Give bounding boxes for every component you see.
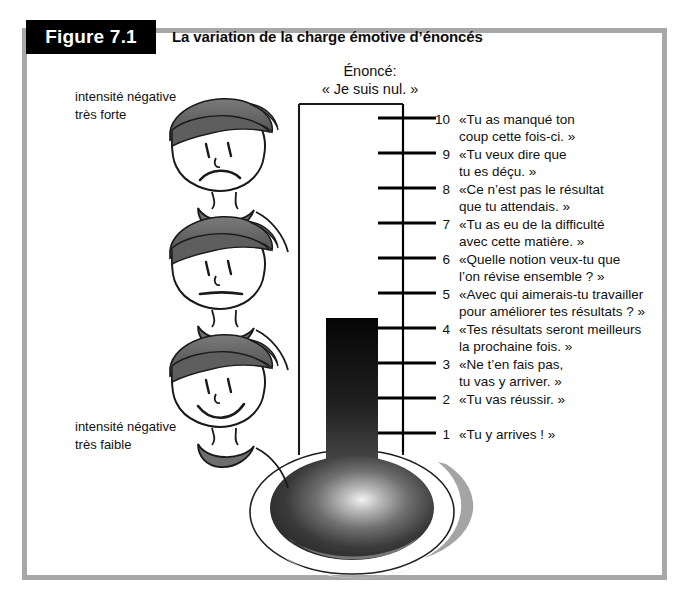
- scale-text-6: «Quelle notion veux-tu que l’on révise e…: [459, 251, 620, 286]
- scale-label-list: 10 «Tu as manqué ton coup cette fois-ci.…: [0, 0, 693, 609]
- scale-number-4: 4: [424, 321, 450, 338]
- figure-title: La variation de la charge émotive d’énon…: [172, 28, 483, 45]
- scale-number-1: 1: [424, 426, 450, 443]
- scale-item-2: 2 «Tu vas réussir. »: [424, 391, 565, 408]
- scale-number-3: 3: [424, 356, 450, 373]
- scale-text-7: «Tu as eu de la difficulté avec cette ma…: [459, 216, 605, 251]
- scale-item-5: 5 «Avec qui aimerais-tu travailler pour …: [424, 286, 645, 321]
- scale-text-10: «Tu as manqué ton coup cette fois-ci. »: [459, 111, 575, 146]
- scale-text-9: «Tu veux dire que tu es déçu. »: [459, 146, 567, 181]
- scale-item-8: 8 «Ce n’est pas le résultat que tu atten…: [424, 181, 604, 216]
- scale-number-5: 5: [424, 286, 450, 303]
- figure-container: Figure 7.1 La variation de la charge émo…: [0, 0, 693, 609]
- scale-number-8: 8: [424, 181, 450, 198]
- scale-text-1: «Tu y arrives ! »: [459, 426, 555, 443]
- scale-number-10: 10: [424, 111, 450, 128]
- scale-text-2: «Tu vas réussir. »: [459, 391, 565, 408]
- scale-item-4: 4 «Tes résultats seront meilleurs la pro…: [424, 321, 641, 356]
- scale-number-7: 7: [424, 216, 450, 233]
- scale-item-7: 7 «Tu as eu de la difficulté avec cette …: [424, 216, 605, 251]
- scale-item-1: 1 «Tu y arrives ! »: [424, 426, 555, 443]
- scale-item-3: 3 «Ne t’en fais pas, tu vas y arriver. »: [424, 356, 563, 391]
- scale-text-3: «Ne t’en fais pas, tu vas y arriver. »: [459, 356, 563, 391]
- scale-item-6: 6 «Quelle notion veux-tu que l’on révise…: [424, 251, 620, 286]
- scale-text-5: «Avec qui aimerais-tu travailler pour am…: [459, 286, 645, 321]
- figure-number-label: Figure 7.1: [45, 26, 137, 48]
- scale-item-10: 10 «Tu as manqué ton coup cette fois-ci.…: [424, 111, 575, 146]
- scale-text-8: «Ce n’est pas le résultat que tu attenda…: [459, 181, 604, 216]
- scale-number-9: 9: [424, 146, 450, 163]
- scale-text-4: «Tes résultats seront meilleurs la proch…: [459, 321, 641, 356]
- scale-item-9: 9 «Tu veux dire que tu es déçu. »: [424, 146, 567, 181]
- figure-number-tag: Figure 7.1: [26, 20, 156, 54]
- scale-number-2: 2: [424, 391, 450, 408]
- scale-number-6: 6: [424, 251, 450, 268]
